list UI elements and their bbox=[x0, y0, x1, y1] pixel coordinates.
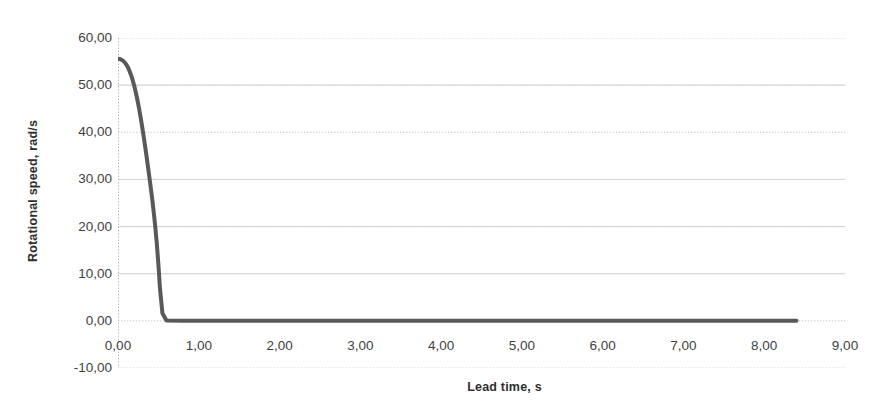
x-tick-label: 2,00 bbox=[245, 338, 315, 354]
y-tick-label: 10,00 bbox=[0, 267, 112, 281]
gridlines bbox=[118, 38, 845, 368]
y-tick-label: 40,00 bbox=[0, 125, 112, 139]
y-tick-label: -10,00 bbox=[0, 361, 112, 375]
x-tick-label: 8,00 bbox=[729, 338, 799, 354]
x-tick-label: 4,00 bbox=[406, 338, 476, 354]
data-series-group bbox=[118, 59, 797, 321]
x-tick-label: 5,00 bbox=[487, 338, 557, 354]
y-tick-label: 30,00 bbox=[0, 172, 112, 186]
x-axis-title: Lead time, s bbox=[0, 380, 889, 394]
plot-area bbox=[118, 38, 845, 368]
x-tick-label: 0,00 bbox=[83, 338, 153, 354]
x-tick-label: 9,00 bbox=[810, 338, 880, 354]
rotational-speed-chart: Rotational speed, rad/s 60,0050,0040,003… bbox=[0, 0, 889, 417]
x-tick-label: 3,00 bbox=[325, 338, 395, 354]
y-tick-label: 20,00 bbox=[0, 220, 112, 234]
y-tick-label: 60,00 bbox=[0, 31, 112, 45]
x-axis-tick-labels: 0,001,002,003,004,005,006,007,008,009,00 bbox=[0, 338, 889, 358]
y-tick-label: 50,00 bbox=[0, 78, 112, 92]
x-tick-label: 7,00 bbox=[648, 338, 718, 354]
data-line bbox=[118, 59, 797, 321]
x-tick-label: 6,00 bbox=[568, 338, 638, 354]
plot-svg bbox=[118, 38, 845, 368]
x-tick-label: 1,00 bbox=[164, 338, 234, 354]
y-tick-label: 0,00 bbox=[0, 314, 112, 328]
x-axis-title-text: Lead time, s bbox=[467, 380, 542, 394]
